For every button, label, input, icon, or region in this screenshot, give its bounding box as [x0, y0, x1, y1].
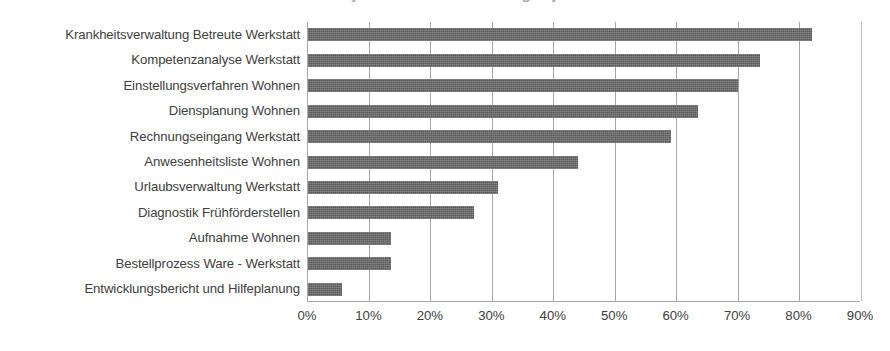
value-tick-label: 70% [724, 308, 750, 324]
chart-title-cropped: Prozessanalyse – Anteil der Nennungen je… [0, 0, 890, 10]
value-tick-label: 20% [417, 308, 443, 324]
value-tick-label: 10% [355, 308, 381, 324]
category-label: Urlaubsverwaltung Werkstatt [0, 180, 300, 194]
bar [308, 257, 391, 270]
category-label: Aufnahme Wohnen [0, 231, 300, 245]
bar [308, 283, 342, 296]
value-tick-label: 0% [297, 308, 316, 324]
bar [308, 54, 760, 67]
value-tick-label: 80% [785, 308, 811, 324]
category-label: Anwesenheitsliste Wohnen [0, 155, 300, 169]
gridline [799, 22, 800, 301]
category-label: Diensplanung Wohnen [0, 104, 300, 118]
category-label: Bestellprozess Ware - Werkstatt [0, 257, 300, 271]
value-tick-label: 50% [601, 308, 627, 324]
bar [308, 181, 498, 194]
value-tick-label: 60% [662, 308, 688, 324]
category-label: Rechnungseingang Werkstatt [0, 130, 300, 144]
bar [308, 105, 698, 118]
value-tick-label: 40% [540, 308, 566, 324]
category-label: Diagnostik Frühförderstellen [0, 206, 300, 220]
category-axis-labels: Krankheitsverwaltung Betreute WerkstattK… [0, 22, 300, 302]
category-label: Kompetenzanalyse Werkstatt [0, 53, 300, 67]
bar [308, 206, 474, 219]
bar [308, 232, 391, 245]
value-tick-label: 30% [478, 308, 504, 324]
category-label: Entwicklungsbericht und Hilfeplanung [0, 282, 300, 296]
gridline [861, 22, 862, 301]
category-label: Einstellungsverfahren Wohnen [0, 79, 300, 93]
value-tick-label: 90% [847, 308, 873, 324]
bar [308, 156, 578, 169]
bar [308, 79, 738, 92]
bar [308, 130, 671, 143]
bar-chart: Prozessanalyse – Anteil der Nennungen je… [0, 0, 890, 351]
bar [308, 28, 812, 41]
value-axis-tick-labels: 0%10%20%30%40%50%60%70%80%90% [307, 308, 860, 332]
category-label: Krankheitsverwaltung Betreute Werkstatt [0, 28, 300, 42]
plot-area [307, 22, 860, 302]
